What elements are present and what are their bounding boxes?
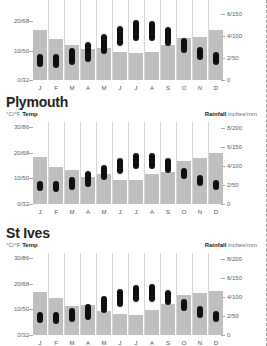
y-axis-tick-right: 0: [227, 332, 230, 338]
rainfall-bar: [161, 45, 174, 80]
x-axis-month-label: J: [112, 85, 128, 92]
month-column[interactable]: [144, 253, 160, 335]
rainfall-bar: [145, 174, 158, 205]
y-axis-tick-right: 2/50: [227, 182, 239, 188]
temperature-range-capsule: [69, 48, 75, 64]
month-column[interactable]: [176, 253, 192, 335]
rainfall-title-label: Rainfall: [205, 111, 227, 117]
month-column[interactable]: [144, 122, 160, 204]
month-column[interactable]: [32, 0, 48, 80]
y-axis-tick-right: 6/150: [227, 144, 242, 150]
month-column[interactable]: [160, 253, 176, 335]
x-axis-month-label: F: [48, 85, 64, 92]
temperature-range-capsule: [133, 20, 139, 41]
x-axis-month-label: J: [128, 209, 144, 216]
month-column[interactable]: [96, 122, 112, 204]
month-column[interactable]: [176, 0, 192, 80]
x-axis-labels-st-ives: JFMAMJJASOND: [32, 336, 224, 346]
month-column[interactable]: [48, 0, 64, 80]
rainfall-bar: [97, 311, 110, 335]
temperature-range-capsule: [165, 27, 171, 46]
rainfall-bar: [161, 304, 174, 335]
month-column[interactable]: [80, 0, 96, 80]
rainfall-units-label: inches/mm: [226, 242, 257, 248]
x-axis-month-label: J: [112, 209, 128, 216]
rainfall-bar: [209, 153, 222, 204]
rain-axis-caption: Rainfall inches/mm: [205, 111, 257, 118]
x-axis-month-label: M: [96, 340, 112, 346]
month-column[interactable]: [64, 0, 80, 80]
month-column[interactable]: [32, 122, 48, 204]
x-axis-month-label: A: [144, 340, 160, 346]
month-column[interactable]: [112, 0, 128, 80]
month-column[interactable]: [64, 122, 80, 204]
month-column[interactable]: [160, 0, 176, 80]
temp-axis-caption: °C/°F Temp: [6, 111, 38, 118]
rainfall-bar: [113, 180, 126, 204]
rain-axis-caption: Rainfall inches/mm: [205, 242, 257, 249]
month-column[interactable]: [112, 122, 128, 204]
month-column[interactable]: [144, 0, 160, 80]
month-column[interactable]: [128, 253, 144, 335]
month-column[interactable]: [192, 122, 208, 204]
month-column[interactable]: [32, 253, 48, 335]
rainfall-bar: [129, 53, 142, 80]
month-column[interactable]: [176, 122, 192, 204]
temperature-range-capsule: [197, 306, 203, 318]
temperature-range-capsule: [197, 47, 203, 60]
month-column[interactable]: [128, 0, 144, 80]
plot-area-top: 30/8620/6810/500/328/2006/1504/1002/500 …: [0, 0, 267, 92]
temperature-range-capsule: [149, 153, 155, 169]
y-axis-tick-left: 10/50: [14, 175, 29, 181]
x-axis-month-label: J: [32, 85, 48, 92]
x-axis-month-label: J: [128, 85, 144, 92]
temperature-range-capsule: [117, 26, 123, 47]
temperature-range-capsule: [53, 54, 59, 68]
month-column[interactable]: [48, 253, 64, 335]
temperature-range-capsule: [133, 285, 139, 302]
temperature-range-capsule: [213, 52, 219, 65]
temperature-range-capsule: [181, 38, 187, 53]
month-column[interactable]: [96, 253, 112, 335]
axis-captions-st-ives: °C/°F Temp Rainfall inches/mm: [0, 240, 267, 253]
temperature-range-capsule: [165, 158, 171, 173]
temperature-range-capsule: [149, 21, 155, 42]
month-column[interactable]: [208, 0, 224, 80]
month-column[interactable]: [208, 122, 224, 204]
x-axis-month-label: N: [192, 209, 208, 216]
month-column[interactable]: [96, 0, 112, 80]
x-axis-month-label: D: [208, 85, 224, 92]
climate-panel-plymouth: Plymouth °C/°F Temp Rainfall inches/mm 3…: [0, 95, 267, 216]
month-column[interactable]: [48, 122, 64, 204]
x-axis-month-label: D: [208, 340, 224, 346]
month-column[interactable]: [192, 0, 208, 80]
plot-canvas-st-ives: 30/8620/6810/500/328/2006/1504/1002/500: [32, 253, 224, 335]
month-column[interactable]: [128, 122, 144, 204]
x-axis-month-label: M: [64, 85, 80, 92]
x-axis-month-label: J: [112, 340, 128, 346]
x-axis-month-label: J: [32, 340, 48, 346]
plot-area-st-ives: 30/8620/6810/500/328/2006/1504/1002/500 …: [0, 253, 267, 346]
month-column[interactable]: [64, 253, 80, 335]
x-axis-month-label: A: [80, 209, 96, 216]
rainfall-units-label: inches/mm: [226, 111, 257, 117]
month-column[interactable]: [192, 253, 208, 335]
x-axis-month-label: N: [192, 85, 208, 92]
month-column[interactable]: [80, 122, 96, 204]
rainfall-bar: [161, 172, 174, 204]
x-axis-labels-top: JFMAMJJASOND: [32, 81, 224, 92]
y-axis-tick-right: 0: [227, 77, 230, 83]
x-axis-month-label: M: [96, 209, 112, 216]
temperature-range-capsule: [85, 304, 91, 320]
month-column[interactable]: [80, 253, 96, 335]
x-axis-month-label: S: [160, 340, 176, 346]
temp-title-label: Temp: [22, 111, 38, 117]
month-column[interactable]: [208, 253, 224, 335]
y-axis-tick-right: 0: [227, 201, 230, 207]
x-axis-labels-plymouth: JFMAMJJASOND: [32, 205, 224, 216]
y-axis-tick-left: 10/50: [14, 48, 29, 54]
rainfall-bar: [129, 315, 142, 335]
month-column[interactable]: [160, 122, 176, 204]
temperature-range-capsule: [69, 177, 75, 190]
month-column[interactable]: [112, 253, 128, 335]
